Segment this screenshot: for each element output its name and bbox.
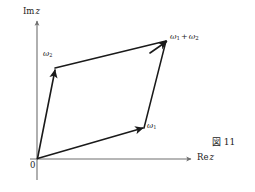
- edge-omega2-to-sum: [55, 41, 166, 68]
- vector-omega-2: [38, 70, 56, 159]
- period-lattice-diagram: [0, 0, 255, 192]
- edge-sum-to-omega1: [144, 41, 166, 128]
- vector-omega-2-label: ω2: [43, 50, 52, 58]
- vector-omega-1-label: ω1: [147, 122, 156, 130]
- imaginary-axis-label-prefix: Im: [22, 6, 35, 16]
- figure-caption: 図 11: [212, 138, 235, 147]
- omega-2-subscript: 2: [49, 52, 52, 58]
- real-axis-label-prefix: Re: [196, 152, 209, 162]
- origin-label: 0: [30, 161, 35, 170]
- imaginary-axis-label: Imz: [22, 7, 40, 16]
- real-axis-label: Rez: [196, 153, 214, 162]
- real-axis-label-var: z: [209, 152, 213, 162]
- parallelogram-edges: [55, 41, 166, 128]
- vector-omega-sum-label: ω1+ω2: [170, 33, 199, 42]
- omega-sum-subscript-2: 2: [195, 35, 198, 41]
- figure-canvas: Imz Rez 0 ω1 ω2 ω1+ω2 図 11: [0, 0, 255, 192]
- omega-sum-operator: +: [180, 32, 189, 41]
- imaginary-axis-label-var: z: [35, 6, 39, 16]
- vector-omega-1: [38, 128, 144, 159]
- omega-1-subscript: 1: [153, 124, 156, 130]
